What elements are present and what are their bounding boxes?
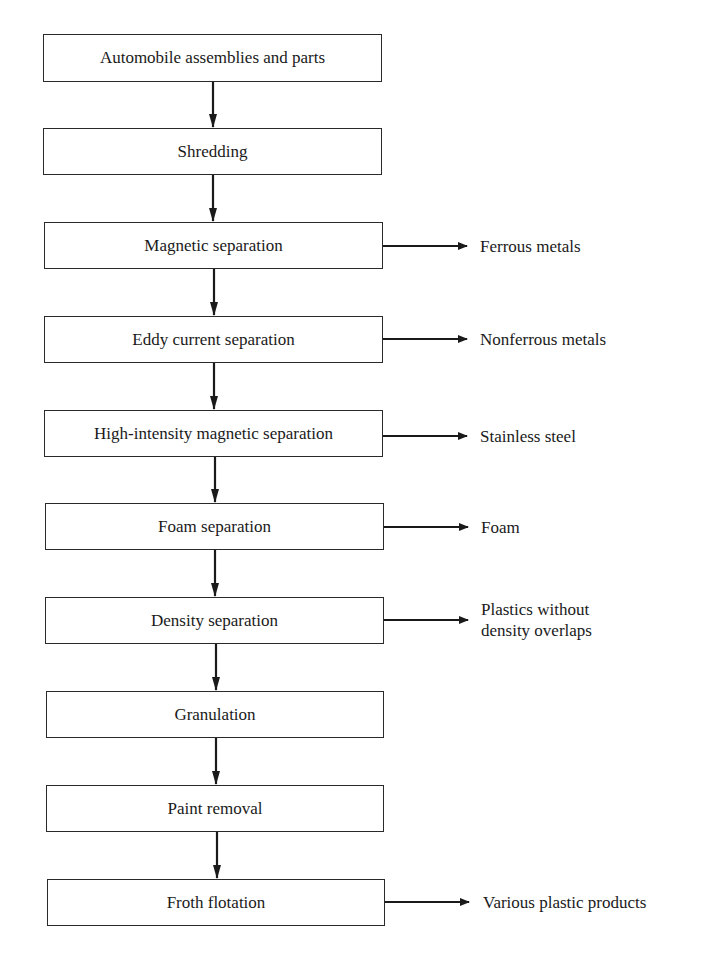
step-label: Magnetic separation: [144, 236, 282, 256]
step-shredding: Shredding: [43, 128, 382, 175]
output-stainless-steel: Stainless steel: [480, 426, 576, 447]
output-foam: Foam: [481, 517, 520, 538]
step-label: Paint removal: [168, 799, 263, 819]
step-granulation: Granulation: [46, 691, 384, 738]
step-label: High-intensity magnetic separation: [94, 424, 333, 444]
step-magnetic-separation: Magnetic separation: [44, 222, 383, 269]
step-eddy-current-separation: Eddy current separation: [44, 316, 383, 363]
output-nonferrous-metals: Nonferrous metals: [480, 329, 606, 350]
step-paint-removal: Paint removal: [46, 785, 384, 832]
step-high-intensity-magnetic-separation: High-intensity magnetic separation: [44, 410, 383, 457]
step-label: Eddy current separation: [132, 330, 294, 350]
step-label: Foam separation: [158, 517, 271, 537]
step-density-separation: Density separation: [45, 597, 384, 644]
output-plastics-without-density-overlaps: Plastics without density overlaps: [481, 599, 592, 641]
step-label: Froth flotation: [167, 893, 266, 913]
step-automobile-assemblies: Automobile assemblies and parts: [43, 34, 382, 82]
output-ferrous-metals: Ferrous metals: [480, 236, 581, 257]
output-various-plastic-products: Various plastic products: [483, 892, 646, 913]
output-line-1: Plastics without: [481, 599, 592, 620]
step-froth-flotation: Froth flotation: [47, 879, 385, 926]
step-label: Density separation: [151, 611, 278, 631]
step-label: Automobile assemblies and parts: [100, 48, 325, 68]
step-label: Shredding: [178, 142, 248, 162]
step-foam-separation: Foam separation: [45, 503, 384, 550]
output-line-2: density overlaps: [481, 620, 592, 641]
step-label: Granulation: [174, 705, 255, 725]
